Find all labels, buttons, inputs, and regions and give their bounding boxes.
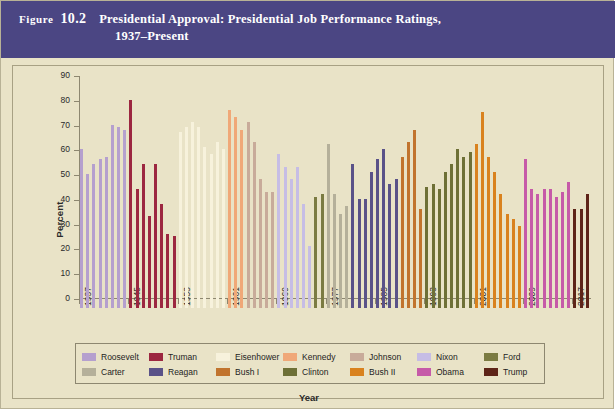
y-tick: 10 — [74, 274, 79, 275]
bar — [401, 157, 404, 308]
bar — [413, 130, 416, 308]
bar — [265, 192, 268, 308]
legend-item[interactable]: Bush II — [350, 367, 417, 377]
chart-panel: Percent Year 0102030405060708090 1937194… — [12, 65, 604, 399]
bar — [148, 216, 151, 308]
bar — [487, 157, 490, 308]
legend-item[interactable]: Ford — [484, 352, 551, 362]
bar — [512, 219, 515, 308]
legend-item[interactable]: Kennedy — [283, 352, 350, 362]
bar — [296, 167, 299, 308]
legend-row-2: CarterReaganBush IClintonBush IIObamaTru… — [82, 364, 544, 379]
bar — [92, 164, 95, 308]
bar — [210, 154, 213, 308]
bar — [253, 142, 256, 308]
bar — [166, 234, 169, 308]
y-tick-label: 30 — [61, 219, 70, 229]
bar — [228, 110, 231, 308]
legend-label: Bush I — [235, 367, 259, 377]
bar — [444, 172, 447, 308]
y-tick-label: 0 — [65, 293, 70, 303]
legend-item[interactable]: Eisenhower — [216, 352, 283, 362]
bar — [136, 189, 139, 308]
bar — [117, 127, 120, 308]
legend-item[interactable]: Obama — [417, 367, 484, 377]
legend-swatch — [283, 353, 297, 361]
legend-label: Nixon — [436, 352, 458, 362]
legend-swatch — [82, 368, 96, 376]
bar — [129, 100, 132, 308]
bar — [370, 172, 373, 308]
y-tick: 30 — [74, 225, 79, 226]
legend-label: Ford — [503, 352, 520, 362]
legend-label: Reagan — [168, 367, 198, 377]
figure-label-word: Figure — [19, 13, 54, 25]
y-tick: 60 — [74, 150, 79, 151]
legend-swatch — [417, 368, 431, 376]
bar — [438, 189, 441, 308]
bar — [308, 246, 311, 308]
bar — [388, 184, 391, 308]
bar — [314, 197, 317, 309]
legend-item[interactable]: Clinton — [283, 367, 350, 377]
bar — [191, 122, 194, 308]
legend-item[interactable]: Johnson — [350, 352, 417, 362]
legend-item[interactable]: Carter — [82, 367, 149, 377]
bar — [80, 149, 83, 308]
y-tick-label: 40 — [61, 194, 70, 204]
bar — [358, 199, 361, 308]
bar — [555, 197, 558, 309]
bar — [203, 147, 206, 308]
legend-item[interactable]: Nixon — [417, 352, 484, 362]
legend-label: Trump — [503, 367, 527, 377]
bar — [536, 194, 539, 308]
y-tick-label: 80 — [61, 95, 70, 105]
legend-item[interactable]: Trump — [484, 367, 551, 377]
bar — [573, 209, 576, 308]
legend-label: Bush II — [369, 367, 395, 377]
bar — [154, 164, 157, 308]
y-tick: 20 — [74, 249, 79, 250]
legend-label: Truman — [168, 352, 197, 362]
legend-swatch — [484, 353, 498, 361]
legend-swatch — [350, 353, 364, 361]
bar — [142, 164, 145, 308]
bar — [327, 144, 330, 308]
legend-label: Johnson — [369, 352, 401, 362]
y-tick-label: 70 — [61, 120, 70, 130]
bar — [561, 192, 564, 308]
legend-item[interactable]: Reagan — [149, 367, 216, 377]
y-tick-label: 90 — [61, 70, 70, 80]
legend-item[interactable]: Roosevelt — [82, 352, 149, 362]
bar — [185, 127, 188, 308]
legend-item[interactable]: Bush I — [216, 367, 283, 377]
bar — [580, 209, 583, 308]
bar — [271, 192, 274, 308]
bar — [481, 112, 484, 308]
legend-row-1: RooseveltTrumanEisenhowerKennedyJohnsonN… — [82, 349, 544, 364]
legend-label: Roosevelt — [101, 352, 139, 362]
figure-title-text-1: Presidential Approval: Presidential Job … — [99, 12, 441, 26]
legend-label: Kennedy — [302, 352, 336, 362]
chart-legend: RooseveltTrumanEisenhowerKennedyJohnsonN… — [75, 343, 545, 384]
y-tick: 90 — [74, 76, 79, 77]
bar — [290, 179, 293, 308]
y-tick-label: 50 — [61, 169, 70, 179]
bar — [222, 149, 225, 308]
bar — [395, 179, 398, 308]
bar — [425, 187, 428, 308]
legend-swatch — [216, 368, 230, 376]
legend-swatch — [216, 353, 230, 361]
bar — [469, 152, 472, 308]
bar — [123, 130, 126, 308]
bar — [173, 236, 176, 308]
legend-swatch — [283, 368, 297, 376]
figure-title-line-2: 1937–Present — [19, 28, 601, 45]
legend-item[interactable]: Truman — [149, 352, 216, 362]
bar — [339, 214, 342, 308]
bar — [462, 157, 465, 308]
bar — [549, 189, 552, 308]
plot-area: 0102030405060708090 19371945195319611969… — [79, 76, 591, 308]
y-tick-label: 20 — [61, 243, 70, 253]
